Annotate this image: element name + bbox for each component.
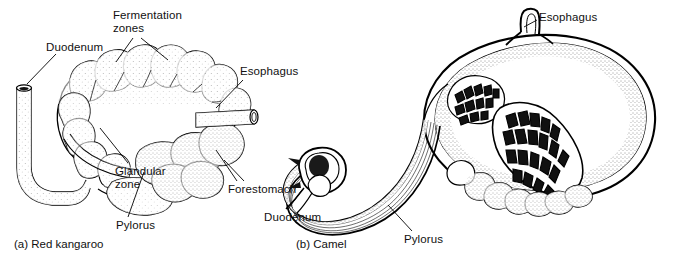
caption-panel-b: (b) Camel (296, 238, 346, 250)
label-forestomach: Forestomach (228, 183, 296, 196)
label-esophagus-kangaroo: Esophagus (240, 65, 298, 78)
leader-pylorus-b (388, 205, 412, 231)
leader-duodenum-a (27, 54, 56, 84)
kangaroo-esophagus-shape (196, 110, 258, 127)
label-glandular-zone: Glandular zone (115, 165, 166, 191)
label-duodenum-kangaroo: Duodenum (46, 41, 103, 54)
label-pylorus-kangaroo: Pylorus (116, 219, 155, 232)
anatomy-illustration (0, 0, 676, 264)
anatomy-figure: Fermentation zones Duodenum Esophagus Gl… (0, 0, 676, 264)
label-fermentation-zones: Fermentation zones (113, 9, 182, 35)
label-duodenum-camel: Duodenum (264, 211, 321, 224)
label-pylorus-camel: Pylorus (404, 233, 443, 246)
caption-panel-a: (a) Red kangaroo (14, 238, 104, 250)
leader-forestomach-lower (224, 160, 244, 181)
camel-stomach-drawing (284, 9, 655, 235)
label-esophagus-camel: Esophagus (539, 11, 597, 24)
